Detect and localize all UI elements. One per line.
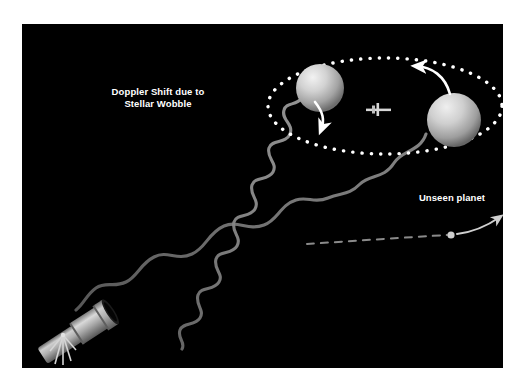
doppler-shift-label: Doppler Shift due toStellar Wobble bbox=[78, 86, 238, 110]
astronomy-diagram-scene: Doppler Shift due toStellar Wobble Unsee… bbox=[22, 24, 503, 368]
unseen-planet-label: Unseen planet bbox=[392, 192, 503, 204]
star-upper-left bbox=[296, 64, 344, 112]
doppler-shift-label-line2: Stellar Wobble bbox=[124, 98, 191, 109]
unseen-planet-dashed-path bbox=[307, 217, 500, 244]
redshifted-light-wave bbox=[76, 134, 426, 310]
star-lower-right bbox=[427, 93, 481, 147]
center-of-mass-marker bbox=[366, 103, 391, 116]
orbit-direction-arrow-right bbox=[416, 66, 450, 94]
doppler-shift-label-line1: Doppler Shift due to bbox=[112, 86, 205, 97]
figure-root: Doppler Shift due toStellar Wobble Unsee… bbox=[0, 0, 523, 390]
